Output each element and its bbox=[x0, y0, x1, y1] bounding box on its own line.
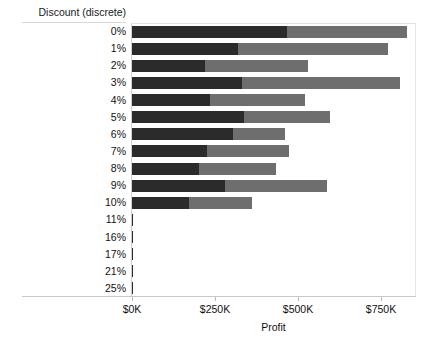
bar-segment[interactable] bbox=[132, 128, 233, 140]
bar-row[interactable]: 3% bbox=[0, 74, 421, 91]
bar-track[interactable] bbox=[132, 214, 133, 226]
bar-segment[interactable] bbox=[132, 282, 133, 294]
bar-segment[interactable] bbox=[132, 214, 133, 226]
bar-segment[interactable] bbox=[244, 111, 330, 123]
bar-track[interactable] bbox=[132, 26, 407, 38]
x-axis-tick-label: $750K bbox=[366, 303, 396, 315]
y-axis-tick-label: 3% bbox=[0, 74, 126, 91]
bar-row[interactable]: 2% bbox=[0, 57, 421, 74]
bar-track[interactable] bbox=[132, 265, 133, 277]
bar-segment[interactable] bbox=[199, 163, 275, 175]
y-axis-tick-label: 0% bbox=[0, 23, 126, 40]
bar-segment[interactable] bbox=[132, 26, 287, 38]
bar-row[interactable]: 7% bbox=[0, 143, 421, 160]
bar-row[interactable]: 21% bbox=[0, 263, 421, 280]
bar-segment[interactable] bbox=[132, 94, 210, 106]
bar-track[interactable] bbox=[132, 145, 289, 157]
bar-track[interactable] bbox=[132, 60, 308, 72]
bar-segment[interactable] bbox=[287, 26, 407, 38]
bar-segment[interactable] bbox=[132, 231, 133, 243]
x-tick-mark bbox=[132, 297, 133, 301]
bar-segment[interactable] bbox=[132, 145, 207, 157]
x-axis-tick-label: $500K bbox=[283, 303, 313, 315]
bar-row[interactable]: 9% bbox=[0, 177, 421, 194]
bar-track[interactable] bbox=[132, 111, 330, 123]
bar-row[interactable]: 1% bbox=[0, 40, 421, 57]
bar-segment[interactable] bbox=[132, 163, 199, 175]
bar-track[interactable] bbox=[132, 43, 388, 55]
bar-row[interactable]: 6% bbox=[0, 126, 421, 143]
y-axis-field-caption: Discount (discrete) bbox=[0, 6, 126, 18]
y-axis-tick-label: 6% bbox=[0, 126, 126, 143]
y-axis-tick-label: 5% bbox=[0, 109, 126, 126]
bar-row[interactable]: 4% bbox=[0, 92, 421, 109]
y-axis-tick-label: 21% bbox=[0, 263, 126, 280]
x-axis-tick-label: $250K bbox=[200, 303, 230, 315]
x-tick-mark bbox=[381, 297, 382, 301]
bar-rows-container: 0%1%2%3%4%5%6%7%8%9%10%11%16%17%21%25% bbox=[0, 23, 421, 297]
bar-track[interactable] bbox=[132, 128, 285, 140]
y-axis-tick-label: 25% bbox=[0, 280, 126, 297]
y-axis-tick-label: 8% bbox=[0, 160, 126, 177]
profit-by-discount-bar-chart: Discount (discrete) 0%1%2%3%4%5%6%7%8%9%… bbox=[0, 0, 421, 347]
bar-track[interactable] bbox=[132, 77, 400, 89]
bar-track[interactable] bbox=[132, 197, 252, 209]
bar-segment[interactable] bbox=[132, 180, 225, 192]
bar-row[interactable]: 10% bbox=[0, 194, 421, 211]
bar-segment[interactable] bbox=[238, 43, 388, 55]
y-axis-tick-label: 11% bbox=[0, 211, 126, 228]
bar-segment[interactable] bbox=[132, 197, 189, 209]
y-axis-tick-label: 17% bbox=[0, 246, 126, 263]
bar-row[interactable]: 25% bbox=[0, 280, 421, 297]
bar-segment[interactable] bbox=[132, 111, 244, 123]
bar-row[interactable]: 17% bbox=[0, 246, 421, 263]
bar-segment[interactable] bbox=[242, 77, 400, 89]
bar-segment[interactable] bbox=[189, 197, 252, 209]
bar-segment[interactable] bbox=[225, 180, 326, 192]
x-axis-tick-label: $0K bbox=[123, 303, 142, 315]
bar-segment[interactable] bbox=[205, 60, 307, 72]
bar-segment[interactable] bbox=[207, 145, 289, 157]
x-tick-mark bbox=[298, 297, 299, 301]
bar-track[interactable] bbox=[132, 282, 133, 294]
y-axis-tick-label: 7% bbox=[0, 143, 126, 160]
x-axis-title: Profit bbox=[131, 321, 416, 333]
bar-row[interactable]: 11% bbox=[0, 211, 421, 228]
bar-track[interactable] bbox=[132, 180, 327, 192]
y-axis-tick-label: 9% bbox=[0, 177, 126, 194]
y-axis-tick-label: 4% bbox=[0, 92, 126, 109]
x-tick-mark bbox=[215, 297, 216, 301]
bar-segment[interactable] bbox=[132, 43, 238, 55]
bar-row[interactable]: 8% bbox=[0, 160, 421, 177]
bar-segment[interactable] bbox=[132, 248, 133, 260]
y-axis-tick-label: 2% bbox=[0, 57, 126, 74]
bar-segment[interactable] bbox=[210, 94, 305, 106]
y-axis-tick-label: 16% bbox=[0, 229, 126, 246]
bar-segment[interactable] bbox=[132, 60, 205, 72]
bar-row[interactable]: 5% bbox=[0, 109, 421, 126]
bar-segment[interactable] bbox=[233, 128, 285, 140]
bar-row[interactable]: 16% bbox=[0, 229, 421, 246]
bar-segment[interactable] bbox=[132, 77, 242, 89]
bar-track[interactable] bbox=[132, 248, 133, 260]
bar-track[interactable] bbox=[132, 94, 305, 106]
bar-track[interactable] bbox=[132, 231, 133, 243]
bar-segment[interactable] bbox=[132, 265, 133, 277]
y-axis-tick-label: 1% bbox=[0, 40, 126, 57]
bar-track[interactable] bbox=[132, 163, 276, 175]
bar-row[interactable]: 0% bbox=[0, 23, 421, 40]
y-axis-tick-label: 10% bbox=[0, 194, 126, 211]
